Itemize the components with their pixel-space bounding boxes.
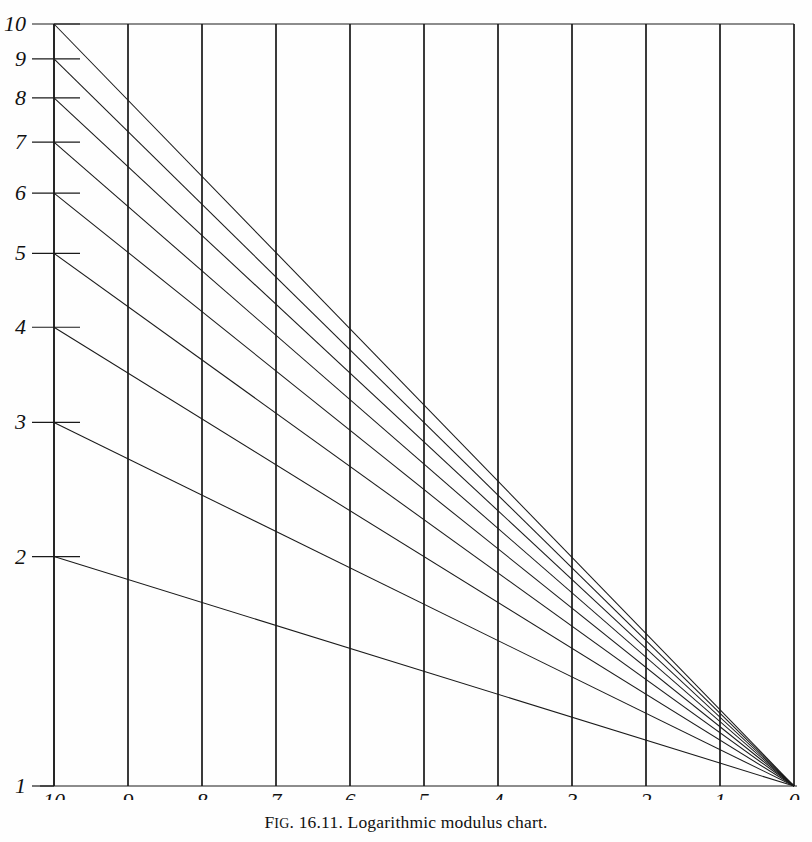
x-tick-label-5: 5 (419, 788, 430, 800)
y-tick-label-4: 4 (15, 314, 26, 339)
x-tick-label-6: 6 (345, 788, 356, 800)
y-tick-label-1: 1 (15, 773, 26, 798)
x-tick-labels: 109876543210 (43, 788, 800, 800)
caption-fig-prefix-first: F (264, 812, 274, 832)
caption-fig-number: . 16.11. (290, 812, 348, 832)
caption-fig-prefix-rest: IG (274, 816, 289, 831)
y-tick-label-5: 5 (15, 240, 26, 265)
y-tick-label-8: 8 (15, 85, 26, 110)
chart-svg: 12345678910109876543210 (0, 0, 812, 800)
figure-caption: FIG. 16.11. Logarithmic modulus chart. (0, 812, 812, 833)
x-tick-label-4: 4 (493, 788, 504, 800)
y-tick-label-9: 9 (15, 46, 26, 71)
x-tick-label-2: 2 (641, 788, 652, 800)
x-tick-label-9: 9 (123, 788, 134, 800)
x-tick-label-8: 8 (197, 788, 208, 800)
y-tick-labels: 12345678910 (4, 11, 27, 798)
logarithmic-modulus-chart: 12345678910109876543210 (0, 0, 812, 800)
y-tick-label-3: 3 (14, 409, 26, 434)
x-tick-label-0: 0 (789, 788, 800, 800)
figure-container: 12345678910109876543210 FIG. 16.11. Loga… (0, 0, 812, 842)
x-tick-label-3: 3 (566, 788, 578, 800)
x-tick-label-10: 10 (43, 788, 65, 800)
y-ticks (32, 24, 80, 786)
x-tick-label-7: 7 (271, 788, 283, 800)
y-tick-label-7: 7 (15, 129, 27, 154)
caption-title: Logarithmic modulus chart. (348, 812, 548, 832)
y-tick-label-2: 2 (15, 544, 26, 569)
y-tick-label-6: 6 (15, 180, 26, 205)
y-tick-label-10: 10 (4, 11, 26, 36)
x-tick-label-1: 1 (715, 788, 726, 800)
